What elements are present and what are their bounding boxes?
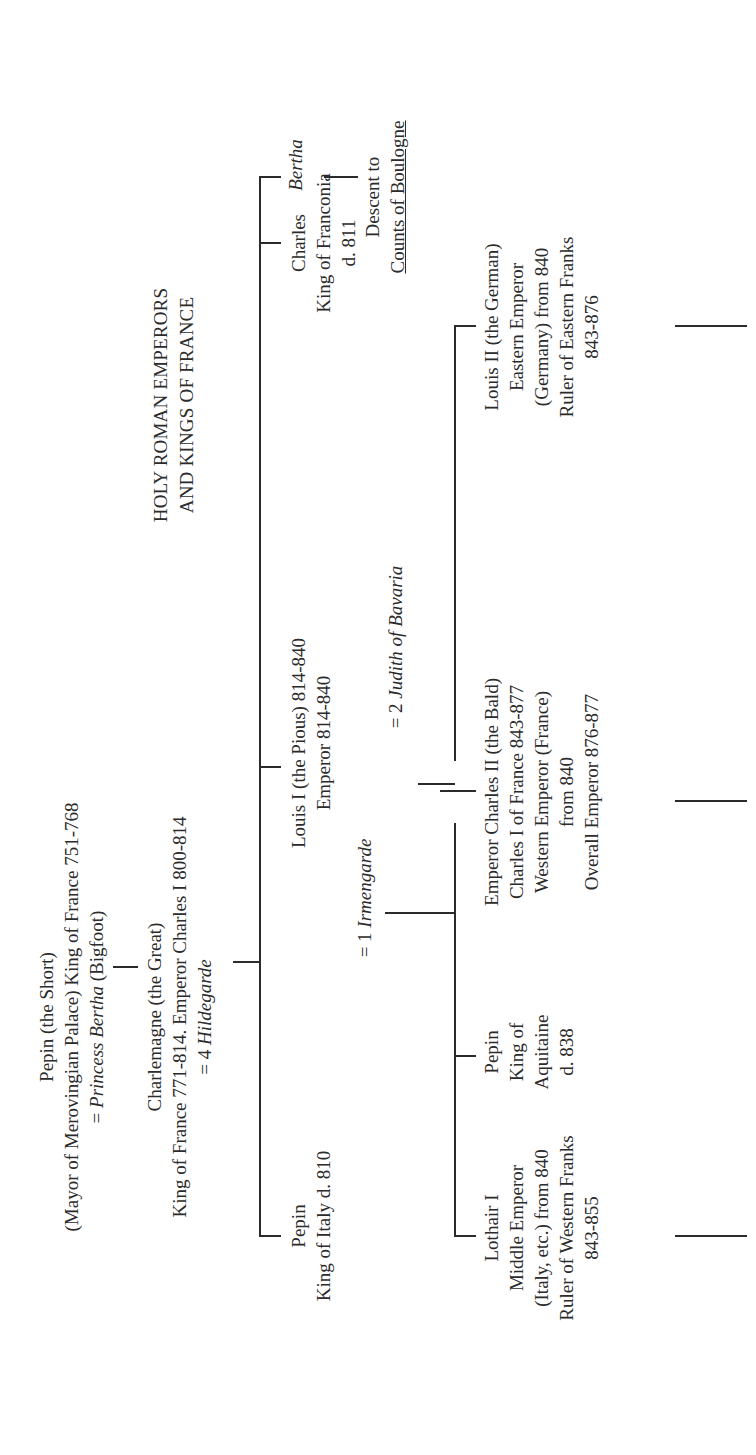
lothair-line-5: 843-855 <box>579 1135 604 1320</box>
drop-pepin-italy <box>259 1235 281 1237</box>
charles-franconia-death: d. 811 <box>336 173 361 312</box>
louis-pious-title: Emperor 814-840 <box>311 638 336 848</box>
drop-bertha <box>259 176 281 178</box>
drop-pepin-aquitaine <box>454 1055 476 1057</box>
pepin-aquitaine-line-3: Aquitaine <box>529 1015 554 1090</box>
bertha-name: Bertha <box>283 139 308 191</box>
drop-lothair <box>454 1235 476 1237</box>
charlemagne-title: King of France 771-814. Emperor Charles … <box>167 816 192 1217</box>
drop-charles-bald <box>440 790 476 792</box>
node-pepin-king-of-italy: Pepin King of Italy d. 810 <box>286 1151 336 1301</box>
spouse-name-bertha-bigfoot: Princess Bertha <box>86 986 107 1108</box>
lothair-line-2: Middle Emperor <box>504 1135 529 1320</box>
lothair-line-4: Ruler of Western Franks <box>554 1135 579 1320</box>
node-descent-boulogne: Descent to Counts of Boulogne <box>360 120 410 273</box>
descent-tick-louis-german <box>675 325 747 327</box>
connector-pepin-tick <box>118 966 138 968</box>
drop-louis-pious <box>259 766 281 768</box>
node-pepin-the-short: Pepin (the Short) (Mayor of Merovingian … <box>34 803 109 1232</box>
pepin-aquitaine-name: Pepin <box>479 1015 504 1090</box>
connector-bertha-descent <box>324 176 358 178</box>
descent-tick-charles-bald <box>675 800 747 802</box>
charles-bald-line-4: from 840 <box>554 678 579 906</box>
louis-german-line-4: Ruler of Eastern Franks <box>554 237 579 418</box>
descent-line-1: Descent to <box>360 120 385 273</box>
title-line-2: AND KINGS OF FRANCE <box>174 288 200 523</box>
connector-irmengarde-marriage <box>385 912 455 914</box>
spouse-name-irmengarde: Irmengarde <box>354 839 375 928</box>
node-bertha: Bertha <box>283 139 308 191</box>
pepin-short-title: (Mayor of Merovingian Palace) King of Fr… <box>59 803 84 1232</box>
node-charles-franconia: Charles King of Franconia d. 811 <box>286 173 361 312</box>
node-pepin-aquitaine: Pepin King of Aquitaine d. 838 <box>479 1015 579 1090</box>
charlemagne-name: Charlemagne (the Great) <box>142 816 167 1217</box>
title-line-1: HOLY ROMAN EMPERORS <box>148 288 174 523</box>
pepin-short-spouse: = Princess Bertha (Bigfoot) <box>84 803 109 1232</box>
charles-franconia-name: Charles <box>286 173 311 312</box>
charles-franconia-title: King of Franconia <box>311 173 336 312</box>
lothair-line-3: (Italy, etc.) from 840 <box>529 1135 554 1320</box>
charles-bald-line-3: Western Emperor (France) <box>529 678 554 906</box>
drop-charles-franconia <box>259 242 281 244</box>
louis-german-line-5: 843-876 <box>579 237 604 418</box>
charles-bald-line-2: Charles I of France 843-877 <box>504 678 529 906</box>
node-lothair: Lothair I Middle Emperor (Italy, etc.) f… <box>479 1135 604 1320</box>
spine-generation-3 <box>259 176 261 1236</box>
pepin-aquitaine-line-2: King of <box>504 1015 529 1090</box>
pepin-short-name: Pepin (the Short) <box>34 803 59 1232</box>
node-charles-the-bald: Emperor Charles II (the Bald) Charles I … <box>479 678 604 906</box>
louis-german-line-2: Eastern Emperor <box>504 237 529 418</box>
pepin-italy-title: King of Italy d. 810 <box>311 1151 336 1301</box>
connector-charlemagne-to-spine <box>233 961 260 963</box>
louis-pious-name: Louis I (the Pious) 814-840 <box>286 638 311 848</box>
louis-german-line-3: (Germany) from 840 <box>529 237 554 418</box>
spine-irmengarde-children <box>454 823 456 1236</box>
louis-german-name: Louis II (the German) <box>479 237 504 418</box>
charlemagne-spouse: = 4 Hildegarde <box>192 816 217 1217</box>
spouse-name-hildegarde: Hildegarde <box>194 959 215 1045</box>
charles-bald-line-5: Overall Emperor 876-877 <box>579 678 604 906</box>
louis-pious-spouse-1: = 1 Irmengarde <box>352 839 377 958</box>
louis-pious-spouse-2: = 2 Judith of Bavaria <box>383 566 408 729</box>
spouse-name-judith-of-bavaria: Judith of Bavaria <box>385 566 406 699</box>
drop-louis-german <box>454 325 476 327</box>
chart-title: HOLY ROMAN EMPERORS AND KINGS OF FRANCE <box>148 288 200 523</box>
node-louis-the-pious: Louis I (the Pious) 814-840 Emperor 814-… <box>286 638 336 848</box>
node-charlemagne: Charlemagne (the Great) King of France 7… <box>142 816 217 1217</box>
lothair-name: Lothair I <box>479 1135 504 1320</box>
genealogy-chart: HOLY ROMAN EMPERORS AND KINGS OF FRANCE … <box>0 0 756 1455</box>
pepin-aquitaine-line-4: d. 838 <box>554 1015 579 1090</box>
descent-line-2: Counts of Boulogne <box>385 120 410 273</box>
spine-judith-children <box>454 327 456 761</box>
connector-judith-marriage <box>418 783 455 785</box>
charles-bald-name: Emperor Charles II (the Bald) <box>479 678 504 906</box>
pepin-italy-name: Pepin <box>286 1151 311 1301</box>
node-louis-the-german: Louis II (the German) Eastern Emperor (G… <box>479 237 604 418</box>
descent-tick-lothair <box>675 1235 747 1237</box>
